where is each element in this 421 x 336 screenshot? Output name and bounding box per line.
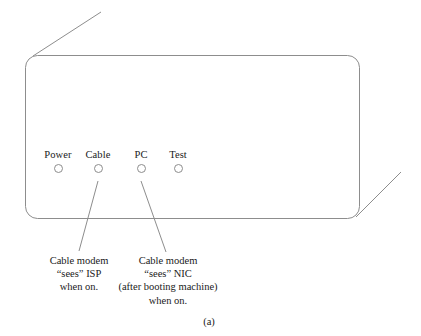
- led-lamp-test[interactable]: [174, 164, 183, 173]
- led-lamp-pc[interactable]: [137, 164, 146, 173]
- modem-body-outline: [26, 56, 360, 219]
- annotation-pc-line-3: (after booting machine): [111, 280, 225, 293]
- annotation-pc-line-4: when on.: [111, 294, 225, 307]
- annotation-pc-line-1: Cable modem: [111, 254, 225, 267]
- leader-line-top-left: [33, 12, 101, 56]
- leader-line-bottom-right: [356, 172, 401, 217]
- led-lamp-cable[interactable]: [94, 164, 103, 173]
- led-indicator-cable[interactable]: Cable: [74, 149, 122, 173]
- led-label-test: Test: [154, 149, 202, 161]
- annotation-pc-led: Cable modem “sees” NIC (after booting ma…: [111, 254, 225, 307]
- led-lamp-power[interactable]: [54, 164, 63, 173]
- led-label-cable: Cable: [74, 149, 122, 161]
- annotation-pc-line-2: “sees” NIC: [111, 267, 225, 280]
- figure-cable-modem-front-panel: Power Cable PC Test Cable modem “sees” I…: [0, 0, 421, 336]
- figure-caption: (a): [189, 316, 229, 327]
- led-indicator-test[interactable]: Test: [154, 149, 202, 173]
